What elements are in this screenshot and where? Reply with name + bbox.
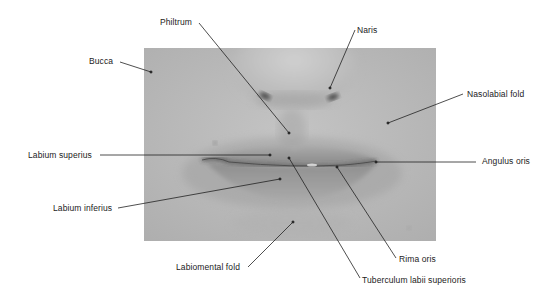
lips-photograph: [144, 48, 436, 241]
lips-photo-illustration: [144, 48, 436, 241]
label-angulus-oris: Angulus oris: [482, 156, 530, 166]
label-naris: Naris: [357, 25, 377, 35]
label-nasolabial-fold: Nasolabial fold: [467, 89, 524, 99]
label-tuberculum-labii-superioris: Tuberculum labii superioris: [362, 275, 466, 285]
label-bucca: Bucca: [89, 56, 113, 66]
label-philtrum: Philtrum: [160, 17, 192, 27]
label-labiomental-fold: Labiomental fold: [176, 262, 240, 272]
label-rima-oris: Rima oris: [399, 254, 436, 264]
label-labium-superius: Labium superius: [28, 150, 92, 160]
label-labium-inferius: Labium inferius: [53, 203, 112, 213]
